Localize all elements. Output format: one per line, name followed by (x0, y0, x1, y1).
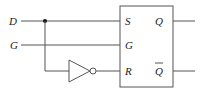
input-label-d: D (8, 15, 17, 27)
gated-d-latch-diagram: D G S G R Q Q (0, 0, 204, 91)
latch-output-qbar: Q (155, 65, 163, 77)
latch-input-s: S (125, 15, 131, 27)
latch-output-q: Q (155, 15, 163, 27)
latch-input-g: G (125, 39, 133, 51)
inverter-gate (69, 60, 96, 82)
wire-d-to-inverter (45, 21, 69, 71)
latch-input-r: R (124, 65, 132, 77)
inverter-triangle-icon (69, 60, 90, 82)
input-label-g: G (10, 39, 18, 51)
